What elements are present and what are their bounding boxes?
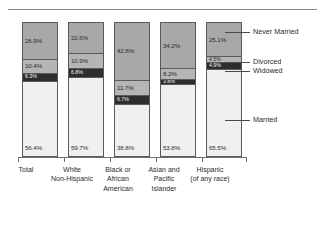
x-axis-tick [110, 157, 111, 162]
segment-value-label: 56.4% [25, 145, 42, 151]
segment-value-label: 11.7% [117, 85, 134, 91]
legend-leader-line-married [225, 120, 250, 121]
legend-leader-line-never-married [225, 32, 250, 33]
segment-never-married[interactable]: 22.6% [69, 23, 103, 53]
legend-leader-line-widowed [225, 71, 250, 72]
segment-value-label: 53.8% [163, 145, 180, 151]
chart-figure: 26.9% 10.4% 6.3% 56.4% 22.6% 10.9% 6.8% [0, 0, 325, 227]
segment-value-label: 6.3% [25, 75, 37, 80]
top-divider-rule [8, 9, 317, 10]
segment-value-label: 25.1% [209, 37, 226, 43]
x-axis-tick [64, 157, 65, 162]
segment-divorced[interactable]: 8.2% [161, 68, 195, 79]
segment-married[interactable]: 56.4% [23, 81, 57, 156]
segment-value-label: 42.8% [117, 48, 134, 54]
stacked-bar-total[interactable]: 26.9% 10.4% 6.3% 56.4% [22, 22, 58, 157]
segment-divorced[interactable]: 11.7% [115, 80, 149, 96]
legend-label-never-married[interactable]: Never Married [253, 28, 299, 35]
segment-never-married[interactable]: 34.2% [161, 23, 195, 68]
segment-never-married[interactable]: 42.8% [115, 23, 149, 80]
x-axis-tick [246, 157, 247, 162]
x-axis-tick [156, 157, 157, 162]
segment-value-label: 8.2% [163, 71, 177, 77]
segment-value-label: 22.6% [71, 35, 88, 41]
segment-value-label: 26.9% [25, 38, 42, 44]
stacked-bar-black-or-african-american[interactable]: 42.8% 11.7% 6.7% 38.8% [114, 22, 150, 157]
stacked-bar-white-non-hispanic[interactable]: 22.6% 10.9% 6.8% 59.7% [68, 22, 104, 157]
legend-leader-line-divorced [225, 62, 250, 63]
segment-value-label: 38.8% [117, 145, 134, 151]
segment-value-label: 6.7% [117, 98, 129, 103]
segment-widowed[interactable]: 6.3% [23, 73, 57, 81]
segment-value-label: 6.8% [71, 70, 83, 75]
x-axis-tick [202, 157, 203, 162]
segment-never-married[interactable]: 25.1% [207, 23, 241, 56]
segment-value-label: 59.7% [71, 145, 88, 151]
stacked-bar-asian-and-pacific-islander[interactable]: 34.2% 8.2% 3.8% 53.8% [160, 22, 196, 157]
segment-value-label: 10.9% [71, 58, 88, 64]
segment-never-married[interactable]: 26.9% [23, 23, 57, 59]
segment-widowed[interactable]: 6.7% [115, 95, 149, 104]
stacked-bar-hispanic[interactable]: 25.1% 4.5% 4.9% 65.5% [206, 22, 242, 157]
plot-area: 26.9% 10.4% 6.3% 56.4% 22.6% 10.9% 6.8% [18, 22, 246, 157]
legend-label-married[interactable]: Married [253, 116, 277, 123]
segment-widowed[interactable]: 6.8% [69, 68, 103, 77]
segment-divorced[interactable]: 10.4% [23, 59, 57, 73]
segment-married[interactable]: 38.8% [115, 104, 149, 156]
segment-married[interactable]: 65.5% [207, 69, 241, 156]
legend-label-divorced[interactable]: Divorced [253, 58, 281, 65]
x-axis-tick [18, 157, 19, 162]
segment-married[interactable]: 53.8% [161, 84, 195, 156]
legend-label-widowed[interactable]: Widowed [253, 67, 283, 74]
segment-married[interactable]: 59.7% [69, 77, 103, 156]
x-axis-category-label-hispanic: Hispanic (of any race) [183, 165, 237, 184]
segment-value-label: 34.2% [163, 43, 180, 49]
segment-value-label: 65.5% [209, 145, 226, 151]
x-axis-line [18, 157, 246, 158]
segment-divorced[interactable]: 10.9% [69, 53, 103, 67]
segment-value-label: 10.4% [25, 63, 42, 69]
